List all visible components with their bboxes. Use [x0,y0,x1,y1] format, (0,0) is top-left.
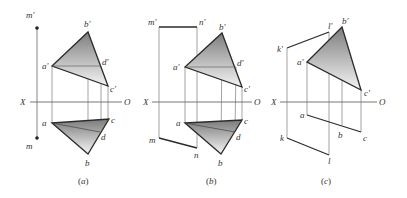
label-a-prime: a' [297,57,305,67]
axis-label-o-c: O [379,97,386,107]
label-d-prime: d' [237,58,245,68]
label-c: c [244,116,248,126]
line-k-l [287,138,329,155]
labels-c: l' b' k' a' c' a b c k l [277,16,371,166]
orthographic-projection-diagram: X O m' b' a' d' c' a c [0,0,407,198]
triangle-v-projection-a [52,32,108,86]
point-m-prime-dot [35,26,39,30]
label-b-prime: b' [342,16,350,26]
caption-a: (a) [78,176,89,186]
label-c: c [363,133,367,143]
label-l-prime: l' [328,21,334,31]
caption-b: (b) [206,176,217,186]
panel-b: X O m' n' b' a' d' c' [142,17,261,186]
label-b-prime: b' [84,19,92,29]
label-a: a [42,118,47,128]
label-b: b [218,158,223,168]
label-m: m [26,141,33,151]
label-k: k [280,133,285,143]
label-a: a [300,110,305,120]
triangle-v-projection-c [307,27,361,90]
label-b: b [85,158,90,168]
label-a: a [176,118,181,128]
label-m-prime: m' [26,10,35,20]
label-b: b [338,130,343,140]
axis-label-o-a: O [124,97,131,107]
label-d: d [101,132,106,142]
panel-a: X O m' b' a' d' c' a c [19,10,131,186]
label-c-prime: c' [364,88,371,98]
axis-label-x-b: X [142,97,149,107]
label-b-prime: b' [219,22,227,32]
label-k-prime: k' [277,44,284,54]
label-a-prime: a' [173,62,181,72]
label-l: l [328,156,331,166]
label-c-prime: c' [244,84,251,94]
label-m: m [149,135,156,145]
label-m-prime: m' [148,17,157,27]
label-a-prime: a' [42,61,50,71]
triangle-v-projection-b [185,33,242,87]
line-m-n [159,138,197,148]
label-d: d [236,132,241,142]
line-a-c-h-projection [307,115,361,132]
label-n-prime: n' [199,17,207,27]
axis-label-x-a: X [19,97,26,107]
label-c: c [111,115,115,125]
label-d-prime: d' [102,57,110,67]
label-n: n [194,150,199,160]
axis-label-o-b: O [254,97,261,107]
point-m-dot [35,136,39,140]
panel-c: X O l' b' k' a' c' a b c [270,16,386,186]
label-c-prime: c' [110,84,117,94]
triangle-h-projection-b [185,120,242,154]
projection-figure: X O m' b' a' d' c' a c [0,0,407,198]
axis-label-x-c: X [270,97,277,107]
labels-a: m' b' a' d' c' a c d m b [26,10,117,168]
caption-c: (c) [321,176,331,186]
